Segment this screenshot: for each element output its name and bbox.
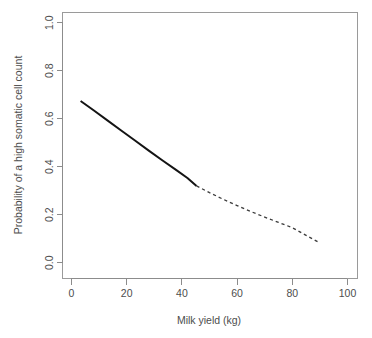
y-tick-label-0: 0.0: [43, 255, 55, 270]
x-tick-label-4: 80: [286, 287, 298, 299]
y-tick-label-4: 0.8: [43, 63, 55, 78]
x-axis-title: Milk yield (kg): [177, 314, 241, 326]
x-tick-label-1: 20: [121, 287, 133, 299]
y-axis-title: Probability of a high somatic cell count: [12, 56, 24, 235]
x-tick-label-5: 100: [339, 287, 357, 299]
x-tick-label-0: 0: [69, 287, 75, 299]
x-tick-label-3: 60: [231, 287, 243, 299]
y-tick-label-3: 0.6: [43, 111, 55, 126]
y-tick-label-5: 1.0: [43, 15, 55, 30]
y-tick-label-2: 0.4: [43, 159, 55, 174]
probability-vs-milk-yield-chart: 1.0 0.8 0.6 0.4 0.2 0.0 0 20 40 60 80 10…: [0, 0, 372, 338]
chart-figure: 1.0 0.8 0.6 0.4 0.2 0.0 0 20 40 60 80 10…: [0, 0, 372, 338]
x-tick-label-2: 40: [176, 287, 188, 299]
y-tick-label-1: 0.2: [43, 207, 55, 222]
